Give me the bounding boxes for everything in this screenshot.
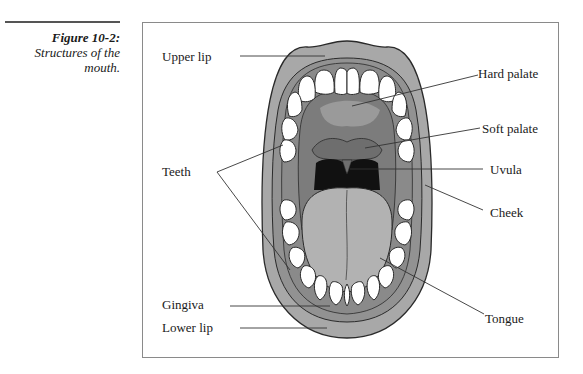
label-tongue: Tongue [485, 311, 524, 326]
label-lower-lip: Lower lip [162, 320, 213, 335]
label-cheek: Cheek [490, 205, 524, 220]
label-teeth: Teeth [162, 164, 191, 179]
label-soft-palate: Soft palate [482, 121, 538, 136]
mouth-diagram: Upper lip Hard palate Soft palate Uvula … [0, 0, 583, 374]
leader-cheek [425, 185, 483, 210]
label-gingiva: Gingiva [162, 297, 204, 312]
label-hard-palate: Hard palate [478, 66, 539, 81]
label-upper-lip: Upper lip [162, 49, 211, 64]
soft-palate [312, 138, 382, 160]
label-uvula: Uvula [490, 162, 522, 177]
